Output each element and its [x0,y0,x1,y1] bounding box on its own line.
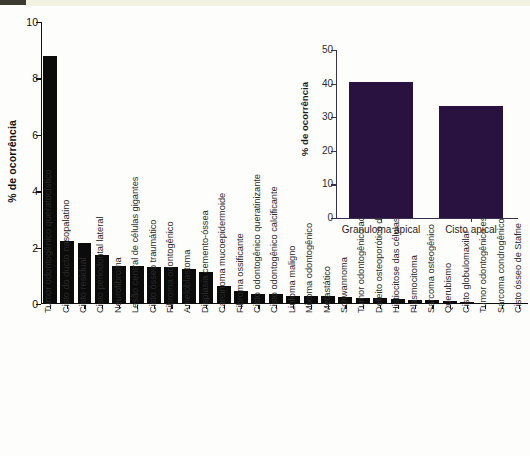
main-x-tick-label: Cisto do ducto nasopalatino [61,200,70,313]
main-y-tick-label: 6 [32,130,38,141]
inset-y-tick-label: 10 [322,179,333,189]
main-y-tick-label: 4 [32,186,38,197]
inset-x-tick-mark [471,218,472,222]
main-x-tick-label: Cisto ósseo de Stafne [514,223,523,313]
inset-y-tick-label: 50 [322,45,333,55]
main-x-tick-label: Fibroma ossificante [235,233,244,313]
main-x-tick-label: Schwannoma [340,257,349,313]
main-x-tick-label: Cisto odontogênico calcificante [270,186,279,313]
inset-y-tick-label: 0 [327,213,333,223]
main-x-tick-label: Plasmocitoma [409,255,418,313]
inset-y-tick-label: 40 [322,79,333,89]
main-x-tick-label: Ameloblastoma [183,250,192,313]
inset-bar-chart: % de ocorrência 01020304050Granuloma api… [296,40,524,230]
inset-y-tick-label: 30 [322,112,333,122]
figure-container: % de ocorrência 0246810 Tumor odontogêni… [0,0,530,456]
main-x-tick-label: Cisto periodontal lateral [96,217,105,313]
inset-x-axis-line [336,218,518,219]
inset-plot-area: 01020304050Granuloma apicalCisto apical [336,50,516,218]
main-y-tick-label: 8 [32,73,38,84]
main-x-tick-label: Neurofibroma [114,257,123,313]
bar[interactable] [439,106,504,218]
main-x-tick-label: Linfoma maligno [287,246,296,313]
main-x-tick-label: Cisto odontogênico queratinizante [253,174,262,313]
main-x-tick-label: Displasia cemento-óssea [201,210,210,313]
main-x-tick-label: Sarcoma condrogênico [496,218,505,313]
main-x-tick-label: Querubismo [444,263,453,313]
main-x-tick-label: Fibroma odontogênico [166,221,175,313]
main-x-tick-label: Lesão central de células gigantes [131,177,140,313]
main-x-tick-label: Cisto globulomaxilar [461,230,470,313]
main-y-tick-label: 0 [32,299,38,310]
main-x-tick-label: Cisto residual [79,257,88,313]
main-x-tick-label: Sarcoma osteogênico [427,224,436,313]
main-x-tick-label: Mixoma odontogênico [305,223,314,313]
main-x-tick-label: Metastático [322,266,331,313]
main-x-tick-label: Tumor odontogênico queratocístico [44,169,53,313]
inset-x-tick-label: Cisto apical [445,224,497,235]
bar[interactable] [349,82,414,218]
main-x-tick-label: Carcinoma mucoepidermoide [218,193,227,313]
main-x-tick-label: Cisto ósseo traumático [148,220,157,313]
main-y-axis-title: % de ocorrência [6,120,22,203]
main-x-axis-labels: Tumor odontogênico queratocísticoCisto d… [41,305,528,455]
main-y-tick-label: 2 [32,242,38,253]
inset-y-axis-title: % de ocorrência [299,82,313,156]
inset-x-tick-label: Granuloma apical [342,224,420,235]
inset-x-tick-mark [381,218,382,222]
inset-y-tick-label: 20 [322,146,333,156]
main-y-tick-label: 10 [26,17,38,28]
